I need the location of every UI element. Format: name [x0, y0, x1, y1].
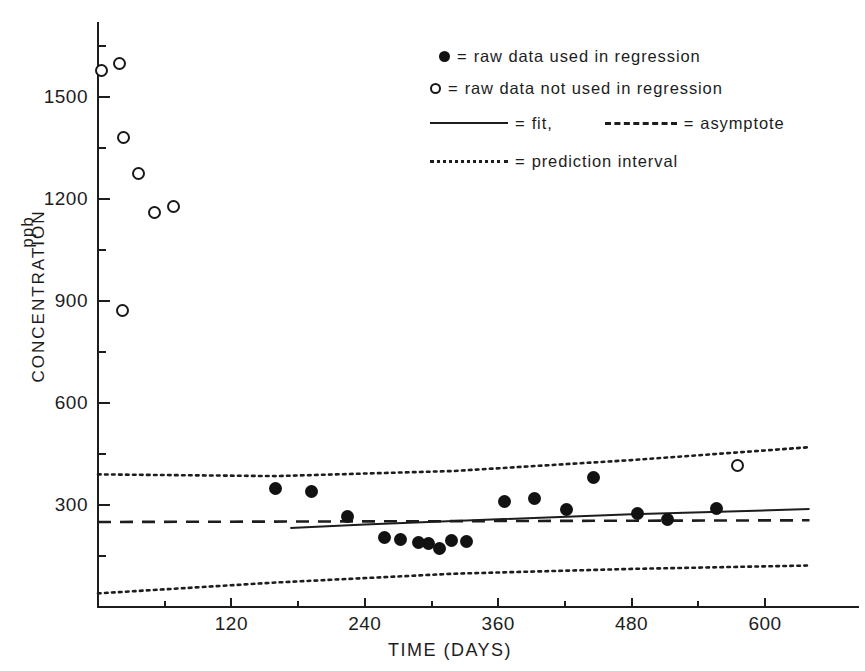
open-data-point — [132, 167, 145, 180]
curve-fit — [290, 509, 809, 528]
filled-data-point — [445, 534, 458, 547]
chart-figure: 30060090012001500 120240360480600 CONCEN… — [0, 0, 865, 671]
open-data-point — [167, 200, 180, 213]
open-data-point — [95, 64, 108, 77]
legend-row-prediction-interval: = prediction interval — [430, 142, 850, 180]
filled-data-point — [631, 507, 644, 520]
filled-data-point — [560, 503, 573, 516]
curve-prediction-interval-lower — [98, 566, 810, 594]
legend-label-asymptote: asymptote — [700, 114, 784, 133]
chart-legend: = raw data used in regression = raw data… — [430, 40, 850, 180]
legend-equals-2: = — [441, 79, 465, 98]
dotted-line-icon — [430, 160, 508, 163]
filled-data-point — [661, 513, 674, 526]
filled-data-point — [305, 485, 318, 498]
open-data-point — [113, 57, 126, 70]
curve-prediction-interval-upper — [98, 447, 810, 476]
filled-data-point — [433, 542, 446, 555]
legend-label-fit: fit, — [532, 114, 553, 133]
legend-equals-5: = — [508, 152, 532, 171]
legend-label-raw-used: raw data used in regression — [474, 47, 701, 66]
legend-equals-3: = — [508, 114, 532, 133]
filled-circle-icon — [439, 51, 450, 62]
legend-row-fit-asymptote: = fit, = asymptote — [430, 104, 850, 142]
legend-equals-4: = — [677, 114, 701, 133]
legend-row-raw-unused: = raw data not used in regression — [430, 72, 850, 104]
legend-row-raw-used: = raw data used in regression — [430, 40, 850, 72]
filled-data-point — [341, 510, 354, 523]
open-data-point — [117, 131, 130, 144]
legend-label-raw-unused: raw data not used in regression — [465, 79, 723, 98]
legend-label-prediction-interval: prediction interval — [532, 152, 678, 171]
legend-equals-1: = — [450, 47, 474, 66]
filled-data-point — [394, 533, 407, 546]
legend-asymptote-group: = asymptote — [605, 114, 785, 133]
solid-line-icon — [430, 122, 508, 124]
dashed-line-icon — [605, 122, 677, 125]
curve-asymptote — [98, 520, 810, 522]
open-data-point — [116, 304, 129, 317]
filled-data-point — [460, 535, 473, 548]
open-circle-icon — [430, 83, 441, 94]
filled-data-point — [710, 502, 723, 515]
